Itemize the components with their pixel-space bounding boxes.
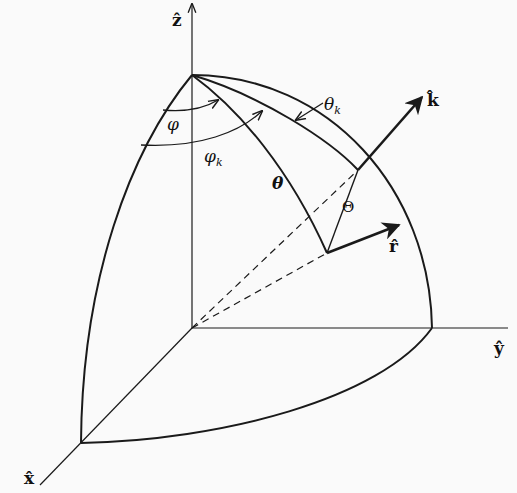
- x-axis-label: x̂: [24, 470, 34, 487]
- theta-label: θ: [272, 175, 283, 192]
- Theta-label: Θ: [342, 200, 354, 215]
- theta-k-subscript: k: [334, 104, 341, 117]
- theta-k-label: θk: [324, 96, 341, 116]
- k-vector: [358, 97, 422, 170]
- theta-k-symbol: θ: [324, 94, 334, 114]
- diagram-canvas: [0, 0, 517, 493]
- phi-k-arc: [141, 111, 262, 145]
- spherical-coordinates-diagram: ẑ ŷ x̂ k̂ r̂ φ φk θ θk Θ: [0, 0, 517, 493]
- r-vector-label: r̂: [389, 238, 398, 255]
- equator-xy: [81, 328, 432, 443]
- phi-k-subscript: k: [216, 156, 223, 169]
- z-axis-label: ẑ: [172, 12, 182, 29]
- meridian-yz: [192, 75, 432, 328]
- phi-k-label: φk: [204, 148, 223, 168]
- k-vector-label: k̂: [427, 92, 439, 109]
- phi-label: φ: [167, 116, 179, 133]
- y-axis-label: ŷ: [494, 340, 504, 357]
- dashed-to-k: [192, 170, 358, 328]
- dashed-to-r: [192, 253, 327, 328]
- x-axis: [40, 328, 192, 485]
- phi-k-symbol: φ: [204, 146, 216, 166]
